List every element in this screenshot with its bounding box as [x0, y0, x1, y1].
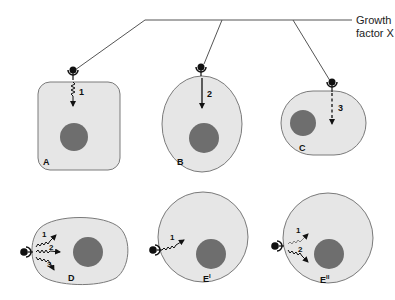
receptor-icon: [327, 79, 337, 93]
svg-text:EI: EI: [203, 273, 211, 284]
nucleus: [314, 239, 344, 269]
nucleus: [73, 237, 103, 267]
growth-factor-lines: [75, 20, 352, 84]
cell-label-e2-sup: II: [326, 274, 330, 280]
growth-factor-diagram: Growth factor X 1 A 2 B: [0, 0, 395, 300]
nucleus: [290, 110, 316, 136]
cell-a: 1 A: [38, 67, 120, 171]
svg-text:2: 2: [207, 89, 212, 99]
nucleus: [189, 123, 219, 153]
svg-text:1: 1: [170, 233, 175, 242]
receptor-icon: [271, 241, 284, 251]
cell-d: 1 2 3 D: [20, 218, 128, 285]
cell-b: 2 B: [162, 64, 242, 173]
cell-e2: 1 2 EII: [271, 193, 373, 285]
receptor-icon: [196, 64, 206, 77]
cell-label-b: B: [177, 157, 184, 167]
cell-label-d: D: [68, 273, 75, 283]
nucleus: [60, 123, 88, 151]
svg-text:2: 2: [49, 243, 54, 252]
cell-label-a: A: [43, 157, 50, 167]
svg-text:1: 1: [296, 226, 301, 235]
svg-text:1: 1: [79, 87, 84, 97]
svg-text:3: 3: [47, 260, 52, 269]
svg-text:3: 3: [338, 103, 343, 113]
receptor-icon: [20, 247, 33, 257]
svg-text:2: 2: [298, 245, 303, 254]
cell-c: 3 C: [281, 79, 366, 156]
cell-label-c: C: [299, 143, 306, 153]
growth-factor-label-line1: Growth: [356, 14, 391, 26]
growth-factor-label-line2: factor X: [356, 27, 395, 39]
cell-e1: 1 EI: [149, 192, 248, 284]
nucleus: [196, 239, 226, 269]
svg-text:1: 1: [42, 230, 47, 239]
